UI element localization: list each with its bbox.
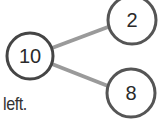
caption-text: left.: [3, 93, 27, 115]
part-value-bottom: 8: [125, 82, 136, 104]
whole-circle: 10: [7, 33, 53, 79]
part-circle-top: 2: [108, 0, 156, 44]
part-value-top: 2: [126, 9, 137, 31]
connector-top: [52, 27, 108, 48]
part-circle-bottom: 8: [107, 69, 155, 117]
whole-value: 10: [19, 45, 41, 67]
connector-bottom: [52, 64, 108, 86]
